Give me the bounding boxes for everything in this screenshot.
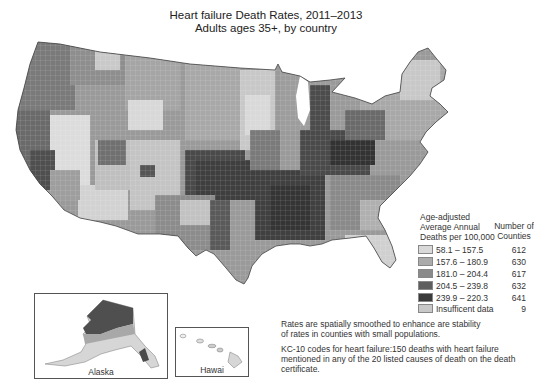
legend-count: 632 — [512, 281, 526, 291]
smoothing-note: Rates are spatially smoothed to enhance … — [281, 319, 531, 339]
note-line: Rates are spatially smoothed to enhance … — [281, 319, 531, 329]
legend-heading-line: Deaths per 100,000 — [420, 232, 496, 242]
legend-count: 9 — [521, 304, 526, 314]
legend-item: Insufficent data 9 — [416, 304, 532, 314]
codes-note: KC-10 codes for heart failure:150 deaths… — [281, 344, 531, 374]
legend-range: 58.1 – 157.5 — [436, 245, 483, 255]
legend-item: 157.6 – 180.9 630 — [416, 257, 532, 267]
legend-range: 157.6 – 180.9 — [436, 257, 488, 267]
hawaii-inset: Hawai — [175, 327, 249, 377]
contiguous-us — [0, 30, 460, 300]
legend-item: 204.5 – 239.8 632 — [416, 281, 532, 291]
note-line: KC-10 codes for heart failure:150 deaths… — [281, 344, 531, 354]
legend-swatch — [418, 257, 433, 266]
note-line: of rates in counties with small populati… — [281, 329, 531, 339]
legend-item: 181.0 – 204.4 617 — [416, 269, 532, 279]
legend-range: 204.5 – 239.8 — [436, 281, 488, 291]
note-line: mentioned in any of the 20 listed causes… — [281, 354, 531, 364]
legend-count: 630 — [512, 257, 526, 267]
legend-heading-line: Age-adjusted — [420, 212, 496, 222]
legend-range: Insufficent data — [436, 304, 494, 314]
legend-heading: Age-adjusted Average Annual Deaths per 1… — [420, 212, 496, 242]
legend-swatch — [418, 269, 433, 278]
alaska-label: Alaska — [35, 367, 167, 377]
count-heading-line: Counties — [494, 231, 534, 241]
legend-count-heading: Number of Counties — [494, 221, 534, 241]
legend-item: 239.9 – 220.3 641 — [416, 293, 532, 303]
count-heading-line: Number of — [494, 221, 534, 231]
legend-item: 58.1 – 157.5 612 — [416, 245, 532, 255]
legend-range: 181.0 – 204.4 — [436, 269, 488, 279]
legend-count: 641 — [512, 293, 526, 303]
alaska-map — [35, 294, 167, 378]
legend-count: 612 — [512, 245, 526, 255]
note-line: certificate. — [281, 364, 531, 374]
legend-heading-line: Average Annual — [420, 222, 496, 232]
legend-swatch — [418, 281, 433, 290]
legend-range: 239.9 – 220.3 — [436, 293, 488, 303]
legend-swatch — [418, 245, 433, 254]
legend-count: 617 — [512, 269, 526, 279]
legend-swatch — [418, 304, 433, 313]
alaska-inset: Alaska — [34, 293, 168, 379]
hawaii-label: Hawai — [176, 365, 248, 375]
legend-swatch — [418, 293, 433, 302]
